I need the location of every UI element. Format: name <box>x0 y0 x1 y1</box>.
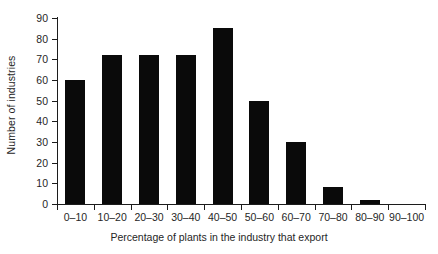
bar-chart-figure: Number of industries 0102030405060708090… <box>0 0 438 254</box>
x-axis-title: Percentage of plants in the industry tha… <box>0 231 438 243</box>
y-axis-tick-label: 30 <box>24 137 48 148</box>
x-axis-tick <box>425 205 426 210</box>
y-axis-title: Number of industries <box>0 0 22 210</box>
y-axis-tick <box>52 18 57 19</box>
x-axis-tick <box>241 205 242 210</box>
bar <box>213 28 233 204</box>
x-axis-tick <box>278 205 279 210</box>
bar <box>176 55 196 204</box>
y-axis-tick-label: 90 <box>24 13 48 24</box>
y-axis-tick <box>52 80 57 81</box>
y-axis-tick-label: 60 <box>24 75 48 86</box>
y-axis-tick <box>52 163 57 164</box>
bar <box>286 142 306 204</box>
x-axis-tick <box>57 205 58 210</box>
x-axis-tick <box>94 205 95 210</box>
x-axis-tick <box>167 205 168 210</box>
x-axis-tick <box>131 205 132 210</box>
y-axis-tick-label: 10 <box>24 178 48 189</box>
bar <box>102 55 122 204</box>
y-axis-tick <box>52 121 57 122</box>
x-axis-tick <box>351 205 352 210</box>
bar <box>323 187 343 204</box>
x-axis-tick-label: 90–100 <box>381 212 433 223</box>
plot-area <box>57 18 425 204</box>
y-axis-tick <box>52 142 57 143</box>
x-axis-tick <box>204 205 205 210</box>
y-axis-tick-label: 0 <box>24 199 48 210</box>
y-axis-tick-label: 40 <box>24 116 48 127</box>
y-axis-tick <box>52 39 57 40</box>
x-axis-tick <box>388 205 389 210</box>
bar <box>360 200 380 204</box>
y-axis-tick-label: 80 <box>24 34 48 45</box>
y-axis-tick-label: 50 <box>24 96 48 107</box>
y-axis-tick <box>52 101 57 102</box>
x-axis-tick-labels: 0–1010–2020–3030–4040–5050–6060–7070–808… <box>0 212 438 228</box>
y-axis-title-text: Number of industries <box>5 56 17 155</box>
bar <box>65 80 85 204</box>
y-axis-tick-label: 70 <box>24 54 48 65</box>
y-axis-tick-label: 20 <box>24 158 48 169</box>
y-axis-tick <box>52 59 57 60</box>
bar <box>249 101 269 204</box>
x-axis-tick <box>315 205 316 210</box>
bar <box>139 55 159 204</box>
y-axis-tick <box>52 183 57 184</box>
